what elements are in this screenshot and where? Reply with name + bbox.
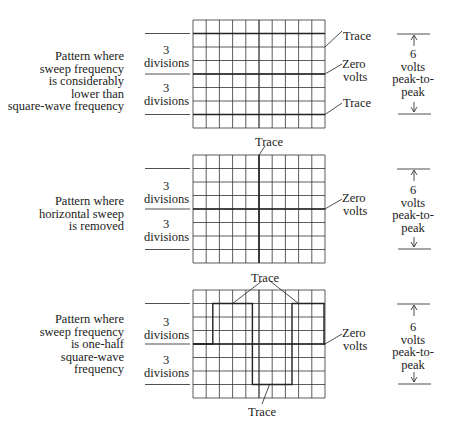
volt-text: peak xyxy=(392,222,434,235)
desc-line: is removed xyxy=(39,220,124,233)
trace-bottom-label: Trace xyxy=(248,406,276,419)
desc-line: Pattern where xyxy=(40,313,124,326)
desc-line: frequency xyxy=(40,363,124,376)
zero-text: Zero xyxy=(342,58,367,71)
divisions-count: 3 xyxy=(144,180,188,193)
panel-description: Pattern where horizontal sweep is remove… xyxy=(39,195,124,233)
divisions-text: divisions xyxy=(144,57,188,70)
volts-text: volts xyxy=(342,340,367,353)
divisions-lower-label: 3 divisions xyxy=(144,82,188,107)
divisions-lower-label: 3 divisions xyxy=(144,218,188,243)
trace-bottom-label: Trace xyxy=(343,97,371,110)
voltage-label: 6 volts peak-to- peak xyxy=(392,321,434,371)
volt-value: 6 xyxy=(392,48,434,61)
desc-line: Pattern where xyxy=(8,50,124,63)
volt-value: 6 xyxy=(392,321,434,334)
divisions-text: divisions xyxy=(144,367,188,380)
divisions-count: 3 xyxy=(144,44,188,57)
desc-line: square-wave frequency xyxy=(8,100,124,113)
voltage-label: 6 volts peak-to- peak xyxy=(392,48,434,98)
volts-text: volts xyxy=(342,71,367,84)
divisions-count: 3 xyxy=(144,82,188,95)
divisions-count: 3 xyxy=(144,316,188,329)
divisions-count: 3 xyxy=(144,218,188,231)
divisions-upper-label: 3 divisions xyxy=(144,44,188,69)
volt-value: 6 xyxy=(392,184,434,197)
zero-text: Zero xyxy=(342,327,367,340)
divisions-text: divisions xyxy=(144,193,188,206)
volt-text: peak xyxy=(392,86,434,99)
volt-text: peak-to- xyxy=(392,209,434,222)
zero-volts-label: Zero volts xyxy=(342,327,367,352)
desc-line: is one-half xyxy=(40,338,124,351)
divisions-count: 3 xyxy=(144,354,188,367)
volt-text: peak-to- xyxy=(392,73,434,86)
zero-volts-label: Zero volts xyxy=(342,58,367,83)
voltage-label: 6 volts peak-to- peak xyxy=(392,184,434,234)
trace-top-label: Trace xyxy=(251,272,279,285)
divisions-text: divisions xyxy=(144,231,188,244)
divisions-upper-label: 3 divisions xyxy=(144,180,188,205)
desc-line: is considerably xyxy=(8,75,124,88)
desc-line: Pattern where xyxy=(39,195,124,208)
zero-text: Zero xyxy=(342,192,367,205)
panel-description: Pattern where sweep frequency is one-hal… xyxy=(40,313,124,376)
volt-text: peak xyxy=(392,359,434,372)
volts-text: volts xyxy=(342,205,367,218)
trace-top-label: Trace xyxy=(255,136,283,149)
divisions-lower-label: 3 divisions xyxy=(144,354,188,379)
divisions-text: divisions xyxy=(144,95,188,108)
volt-text: peak-to- xyxy=(392,346,434,359)
divisions-upper-label: 3 divisions xyxy=(144,316,188,341)
zero-volts-label: Zero volts xyxy=(342,192,367,217)
panel-description: Pattern where sweep frequency is conside… xyxy=(8,50,124,113)
divisions-text: divisions xyxy=(144,329,188,342)
trace-top-label: Trace xyxy=(343,30,371,43)
